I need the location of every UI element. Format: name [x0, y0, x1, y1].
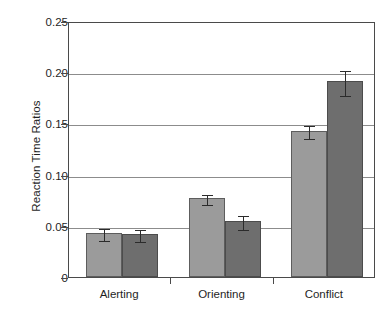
bar [189, 198, 225, 277]
y-axis-tick-mark [61, 227, 68, 228]
y-axis-tick-mark [61, 176, 68, 177]
y-axis-tick-label: 0 [8, 272, 68, 284]
y-axis-tick-mark [61, 73, 68, 74]
bar [327, 81, 363, 277]
error-bar-cap [340, 71, 351, 72]
error-bar-cap [238, 230, 249, 231]
error-bar-cap [202, 205, 213, 206]
bar [291, 131, 327, 277]
y-axis-tick-label: 0.05 [8, 221, 68, 233]
x-axis-tick-mark [170, 278, 171, 284]
y-axis-tick-label: 0.20 [8, 67, 68, 79]
y-axis-tick-label: 0.10 [8, 170, 68, 182]
error-bar [104, 229, 105, 241]
y-axis-tick-label: 0.25 [8, 16, 68, 28]
plot-area [68, 22, 375, 278]
bar-chart-figure: Reaction Time Ratios 00.050.100.150.200.… [0, 0, 389, 324]
error-bar-cap [340, 96, 351, 97]
y-axis-tick-mark [61, 124, 68, 125]
error-bar-cap [99, 241, 110, 242]
error-bar [309, 126, 310, 138]
error-bar-cap [99, 229, 110, 230]
error-bar-cap [135, 230, 146, 231]
x-axis-category-label: Conflict [264, 288, 384, 300]
error-bar [345, 71, 346, 96]
error-bar-cap [304, 126, 315, 127]
error-bar [140, 230, 141, 242]
y-axis-tick-mark [61, 278, 68, 279]
error-bar-cap [135, 242, 146, 243]
error-bar [207, 195, 208, 205]
y-axis-tick-mark [61, 22, 68, 23]
error-bar-cap [202, 195, 213, 196]
x-axis-tick-mark [273, 278, 274, 284]
y-axis-tick-label: 0.15 [8, 118, 68, 130]
gridline [69, 74, 374, 75]
error-bar-cap [238, 216, 249, 217]
error-bar-cap [304, 139, 315, 140]
error-bar [243, 216, 244, 230]
